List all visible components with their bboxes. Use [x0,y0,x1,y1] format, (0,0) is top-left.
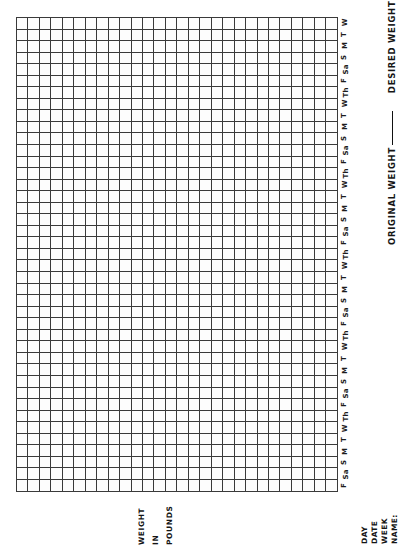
grid-cell[interactable] [62,75,73,87]
grid-cell[interactable] [223,352,234,364]
grid-cell[interactable] [246,121,257,133]
grid-cell[interactable] [257,214,268,226]
grid-cell[interactable] [200,295,211,307]
grid-cell[interactable] [74,41,85,53]
grid-cell[interactable] [246,306,257,318]
grid-cell[interactable] [142,387,153,399]
grid-cell[interactable] [291,329,302,341]
grid-cell[interactable] [154,306,165,318]
grid-cell[interactable] [303,110,314,122]
grid-cell[interactable] [246,29,257,41]
grid-cell[interactable] [234,433,245,445]
grid-cell[interactable] [303,295,314,307]
grid-cell[interactable] [142,445,153,457]
grid-cell[interactable] [223,433,234,445]
grid-cell[interactable] [51,375,62,387]
grid-cell[interactable] [74,133,85,145]
grid-cell[interactable] [177,352,188,364]
grid-cell[interactable] [131,179,142,191]
grid-cell[interactable] [39,387,50,399]
grid-cell[interactable] [39,479,50,491]
grid-cell[interactable] [177,225,188,237]
grid-cell[interactable] [28,352,39,364]
grid-row[interactable] [17,399,338,411]
grid-row[interactable] [17,225,338,237]
grid-cell[interactable] [74,18,85,30]
grid-cell[interactable] [17,156,28,168]
grid-cell[interactable] [211,399,222,411]
grid-cell[interactable] [131,445,142,457]
grid-cell[interactable] [62,283,73,295]
grid-cell[interactable] [39,283,50,295]
grid-cell[interactable] [74,456,85,468]
grid-cell[interactable] [268,364,279,376]
grid-cell[interactable] [268,110,279,122]
grid-cell[interactable] [51,98,62,110]
grid-cell[interactable] [257,98,268,110]
grid-cell[interactable] [268,75,279,87]
grid-row[interactable] [17,260,338,272]
grid-cell[interactable] [85,318,96,330]
grid-cell[interactable] [39,341,50,353]
grid-cell[interactable] [28,18,39,30]
grid-cell[interactable] [120,29,131,41]
grid-cell[interactable] [326,237,338,249]
grid-cell[interactable] [291,168,302,180]
grid-cell[interactable] [108,387,119,399]
grid-cell[interactable] [188,191,199,203]
grid-cell[interactable] [303,422,314,434]
grid-cell[interactable] [131,306,142,318]
grid-cell[interactable] [234,329,245,341]
grid-row[interactable] [17,248,338,260]
grid-cell[interactable] [223,329,234,341]
grid-cell[interactable] [188,341,199,353]
grid-cell[interactable] [131,375,142,387]
grid-cell[interactable] [257,145,268,157]
grid-cell[interactable] [120,110,131,122]
grid-cell[interactable] [39,399,50,411]
grid-cell[interactable] [85,248,96,260]
grid-cell[interactable] [326,75,338,87]
grid-cell[interactable] [200,41,211,53]
grid-cell[interactable] [234,202,245,214]
grid-cell[interactable] [39,75,50,87]
grid-cell[interactable] [268,87,279,99]
grid-cell[interactable] [17,422,28,434]
grid-cell[interactable] [314,202,325,214]
grid-cell[interactable] [234,156,245,168]
grid-cell[interactable] [17,399,28,411]
grid-cell[interactable] [62,272,73,284]
grid-cell[interactable] [28,41,39,53]
grid-cell[interactable] [257,87,268,99]
grid-cell[interactable] [142,306,153,318]
grid-cell[interactable] [142,329,153,341]
grid-cell[interactable] [280,133,291,145]
grid-cell[interactable] [211,110,222,122]
grid-cell[interactable] [291,64,302,76]
grid-cell[interactable] [120,410,131,422]
grid-cell[interactable] [62,41,73,53]
grid-cell[interactable] [131,272,142,284]
grid-cell[interactable] [234,225,245,237]
grid-cell[interactable] [120,191,131,203]
grid-cell[interactable] [268,191,279,203]
grid-cell[interactable] [291,202,302,214]
grid-cell[interactable] [74,433,85,445]
grid-cell[interactable] [257,52,268,64]
grid-cell[interactable] [85,433,96,445]
grid-cell[interactable] [268,225,279,237]
grid-cell[interactable] [303,214,314,226]
grid-row[interactable] [17,18,338,30]
grid-cell[interactable] [280,52,291,64]
grid-cell[interactable] [246,225,257,237]
grid-cell[interactable] [303,191,314,203]
grid-cell[interactable] [314,387,325,399]
grid-cell[interactable] [154,468,165,480]
grid-cell[interactable] [62,64,73,76]
grid-cell[interactable] [51,75,62,87]
grid-cell[interactable] [326,364,338,376]
grid-cell[interactable] [85,98,96,110]
grid-cell[interactable] [177,75,188,87]
grid-row[interactable] [17,479,338,491]
grid-cell[interactable] [165,237,176,249]
